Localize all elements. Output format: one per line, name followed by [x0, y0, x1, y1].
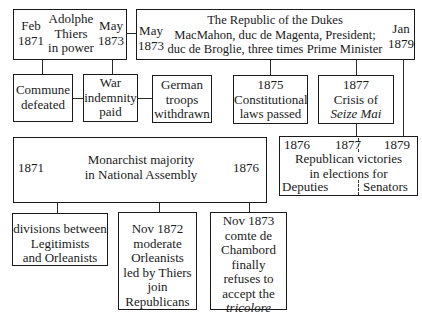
event-line: indemnity [84, 91, 137, 106]
thiers-start-date: Feb 1871 [16, 19, 46, 48]
date-year: 1879 [388, 37, 414, 52]
event-text: 1875 Constitutional laws passed [234, 78, 307, 122]
connector-dukes-republican [403, 60, 404, 136]
event-line: Crisis of [319, 93, 393, 108]
connector-thiers-war [112, 59, 113, 74]
event-text: War indemnity paid [84, 76, 137, 120]
event-line: Commune [14, 83, 72, 98]
event-line: troops [153, 93, 211, 108]
thiers-box: Feb 1871 Adolphe Thiers in power May 187… [13, 9, 127, 60]
event-text: Commune defeated [14, 83, 72, 112]
bottom-line: divisions between [13, 222, 107, 237]
event-line: German [153, 78, 211, 93]
label-senators: Senators [363, 180, 408, 195]
event-line: withdrawn [153, 107, 211, 122]
event-line: Constitutional [234, 93, 307, 108]
connector-thiers-dukes [127, 33, 136, 34]
event-seize-mai-box: 1877 Crisis of Seize Mai [318, 75, 394, 124]
monarchist-start-year: 1871 [18, 161, 44, 176]
republican-title: Republican victories in elections for [280, 152, 417, 181]
label-deputies: Deputies [282, 180, 328, 195]
event-line: 1875 [234, 78, 307, 93]
bottom-text: divisions between Legitimists and Orlean… [13, 222, 107, 266]
title-line: MacMahon, duc de Magenta, President; [161, 28, 389, 43]
event-war-indemnity-box: War indemnity paid [83, 74, 138, 122]
title-line: Monarchist majority [84, 153, 198, 168]
dukes-end-date: Jan 1879 [388, 22, 414, 51]
title-line: in National Assembly [84, 168, 198, 183]
bottom-line: finally [211, 258, 286, 273]
connector-monarchist-divisions [57, 203, 58, 213]
connector-1877-republican [356, 124, 357, 136]
event-line: defeated [14, 98, 72, 113]
bottom-line: join [119, 280, 196, 295]
connector-monarchist-nov1872 [159, 203, 160, 212]
bottom-text: Nov 1872 moderate Orleanists led by Thie… [119, 222, 196, 309]
title-line: in power [46, 41, 96, 56]
bottom-line: and Orleanists [13, 251, 107, 266]
date-month: Jan [388, 22, 414, 37]
event-text: 1877 Crisis of Seize Mai [319, 78, 393, 122]
event-line: laws passed [234, 107, 307, 122]
monarchist-end-year: 1876 [233, 161, 259, 176]
title-line: duc de Broglie, three times Prime Minist… [161, 42, 389, 57]
bottom-text: Nov 1873 comte de Chambord finally refus… [211, 214, 286, 316]
bottom-line: Legitimists [13, 237, 107, 252]
event-text: German troops withdrawn [153, 78, 211, 122]
connector-dukes-1877 [356, 60, 357, 75]
dashed-divider-top [358, 138, 359, 152]
connector-dukes-1875 [270, 60, 271, 75]
bottom-line: moderate [119, 237, 196, 252]
connector-commune-war [73, 98, 83, 99]
connector-monarchist-nov1873 [249, 203, 250, 212]
bottom-line: comte de [211, 229, 286, 244]
dukes-box: May 1873 The Republic of the Dukes MacMa… [136, 9, 415, 60]
event-constitutional-laws-box: 1875 Constitutional laws passed [233, 75, 308, 124]
event-line: paid [84, 105, 137, 120]
bottom-line: Republicans [119, 295, 196, 310]
date-month: Feb [16, 19, 46, 34]
republican-victories-box: 1876 1877 1879 Republican victories in e… [279, 136, 418, 196]
nov-1873-box: Nov 1873 comte de Chambord finally refus… [210, 212, 287, 310]
event-line: Seize Mai [319, 107, 393, 122]
event-commune-box: Commune defeated [13, 74, 73, 122]
bottom-line: refuses to [211, 272, 286, 287]
thiers-end-date: May 1873 [96, 19, 126, 48]
event-line: War [84, 76, 137, 91]
connector-war-german [138, 98, 152, 99]
title-line: Republican victories [280, 152, 417, 167]
bottom-line: accept the [211, 287, 286, 302]
bottom-line: Nov 1873 [211, 214, 286, 229]
date-year: 1871 [16, 34, 46, 49]
title-line: Adolphe [46, 12, 96, 27]
dashed-divider-bottom [358, 180, 359, 195]
dukes-title: The Republic of the Dukes MacMahon, duc … [161, 13, 389, 57]
title-line: Thiers [46, 27, 96, 42]
bottom-line: led by Thiers [119, 266, 196, 281]
date-month: May [96, 19, 126, 34]
bottom-line: tricolore [211, 301, 286, 316]
thiers-title: Adolphe Thiers in power [46, 12, 96, 56]
event-german-troops-box: German troops withdrawn [152, 75, 212, 123]
date-year: 1873 [96, 34, 126, 49]
monarchist-majority-box: 1871 Monarchist majority in National Ass… [13, 137, 267, 203]
bottom-line: Chambord [211, 243, 286, 258]
divisions-box: divisions between Legitimists and Orlean… [12, 213, 108, 266]
nov-1872-box: Nov 1872 moderate Orleanists led by Thie… [118, 212, 197, 310]
monarchist-title: Monarchist majority in National Assembly [84, 153, 198, 182]
event-line: 1877 [319, 78, 393, 93]
bottom-line: Orleanists [119, 251, 196, 266]
title-line: The Republic of the Dukes [161, 13, 389, 28]
bottom-line: Nov 1872 [119, 222, 196, 237]
connector-thiers-commune [42, 59, 43, 74]
